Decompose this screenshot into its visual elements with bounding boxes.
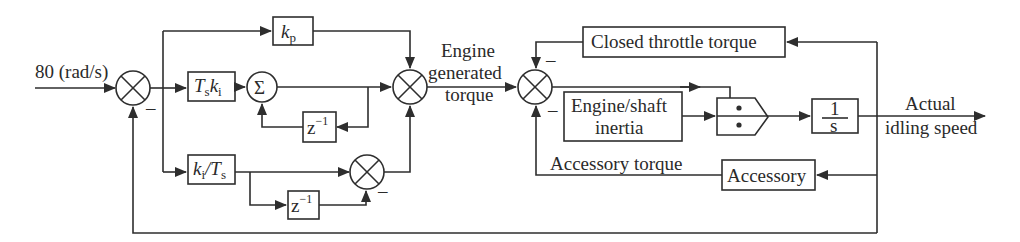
kp-output [313,31,410,68]
engine-torque-label: Engine generated torque [428,40,502,105]
svg-text:Engine: Engine [441,40,495,61]
delay-block-bottom: z−1 [288,191,319,219]
block-diagram: 80 (rad/s) – kp Tski Σ z−1 ki/Ts [0,0,1020,242]
sigma-feedback-out [262,104,303,127]
svg-text:Σ: Σ [254,77,265,98]
sigma-accumulator: Σ [247,72,277,102]
minus-sign-throttle: – [545,49,556,70]
svg-text:generated: generated [428,62,502,83]
kits-block: ki/Ts [188,155,235,184]
sigma-feedback-in [337,87,368,127]
closed-throttle-output [536,42,583,68]
engine-shaft-inertia-block: Engine/shaft inertia [564,92,682,141]
accessory-torque-label: Accessory torque [550,153,682,174]
svg-text:Engine/shaft: Engine/shaft [571,95,668,116]
input-label: 80 (rad/s) [35,61,108,83]
accessory-block: Accessory [722,160,815,190]
minus-sign-error: – [145,97,156,118]
svg-text:idling speed: idling speed [885,117,978,138]
minus-sign-accessory: – [547,99,558,120]
summing-junction-pid [393,70,427,104]
kits-delay-in [250,172,286,205]
svg-text:Actual: Actual [905,93,956,114]
delay-block-top: z−1 [303,112,336,142]
svg-text:s: s [830,115,837,136]
svg-text:inertia: inertia [595,117,644,138]
delay-bottom-output [319,191,366,205]
summing-junction-torque [518,70,552,104]
derivative-output [384,106,410,172]
minus-sign-derivative: – [377,180,388,201]
tski-block: Tski [188,72,235,101]
closed-throttle-block: Closed throttle torque [583,27,785,57]
svg-text:Accessory: Accessory [727,165,807,186]
summing-junction-error [116,71,150,105]
integrator-block: 1 s [812,98,858,136]
svg-text:Closed throttle torque: Closed throttle torque [591,31,757,52]
kp-block: kp [273,17,313,45]
divide-block [717,98,768,135]
